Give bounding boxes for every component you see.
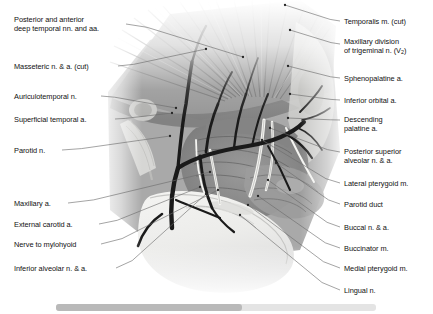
label-deep-temporal: Posterior and anteriordeep temporal nn. …	[14, 16, 99, 33]
label-line-1: Parotid n.	[14, 147, 45, 156]
leader-dot-buccal	[267, 179, 269, 181]
leader-dot-inferior-orbital	[289, 93, 291, 95]
label-masseteric: Masseteric n. & a. (cut)	[14, 63, 89, 72]
leader-dot-sphenopalatine	[287, 65, 289, 67]
leader-dot-external-carotid	[199, 186, 201, 188]
label-line-2: alveolar n. & a.	[344, 157, 401, 166]
label-external-carotid: External carotid a.	[14, 221, 73, 230]
label-maxillary-division: Maxillary divisionof trigeminal n. (V2)	[344, 38, 406, 56]
label-line-1: Lingual n.	[344, 287, 376, 296]
label-line-1: External carotid a.	[14, 221, 73, 230]
leader-dot-maxillary-division	[289, 29, 291, 31]
leader-dot-lingual	[239, 214, 241, 216]
label-line-1: Nerve to mylohyoid	[14, 241, 76, 250]
label-line-1: Parotid duct	[344, 201, 383, 210]
label-inferior-alveolar: Inferior alveolar n. & a.	[14, 265, 87, 274]
label-medial-pterygoid: Medial pterygoid m.	[344, 265, 408, 274]
leader-dot-medial-pterygoid	[247, 204, 249, 206]
leader-dot-auriculotemporal	[175, 107, 177, 109]
progress-fill	[56, 304, 242, 311]
label-auriculotemporal: Auriculotemporal n.	[14, 93, 77, 102]
label-line-2: of trigeminal n. (V2)	[344, 47, 406, 57]
label-lingual: Lingual n.	[344, 287, 376, 296]
label-nerve-mylohyoid: Nerve to mylohyoid	[14, 241, 76, 250]
leader-dot-inferior-alveolar	[205, 193, 207, 195]
label-line-1: Medial pterygoid m.	[344, 265, 408, 274]
label-maxillary-a: Maxillary a.	[14, 200, 51, 209]
leader-dot-masseteric	[205, 48, 207, 50]
label-line-1: Masseteric n. & a. (cut)	[14, 63, 89, 72]
label-line-1: Inferior alveolar n. & a.	[14, 265, 87, 274]
leader-dot-maxillary-a	[209, 171, 211, 173]
label-inferior-orbital: Inferior orbital a.	[344, 97, 396, 106]
dissection-artwork	[96, 0, 346, 300]
label-lateral-pterygoid: Lateral pterygoid m.	[344, 180, 408, 189]
label-posterior-superior-alveolar: Posterior superioralveolar n. & a.	[344, 148, 401, 165]
label-line-2: deep temporal nn. and aa.	[14, 25, 99, 34]
leader-dot-temporalis	[284, 4, 286, 6]
label-line-1: Buccal n. & a.	[344, 224, 389, 233]
label-line-2: palatine a.	[344, 125, 383, 134]
label-parotid-duct: Parotid duct	[344, 201, 383, 210]
bottom-progress-bar[interactable]	[0, 300, 433, 314]
leader-dot-parotid-duct	[275, 162, 277, 164]
label-line-1: Superficial temporal a.	[14, 116, 86, 125]
label-descending-palatine: Descendingpalatine a.	[344, 116, 383, 133]
label-temporalis: Temporalis m. (cut)	[344, 18, 406, 27]
label-sphenopalatine: Sphenopalatine a.	[344, 75, 403, 84]
label-line-1: Temporalis m. (cut)	[344, 18, 406, 27]
label-line-1: Auriculotemporal n.	[14, 93, 77, 102]
label-line-1: Lateral pterygoid m.	[344, 180, 408, 189]
label-line-1: Inferior orbital a.	[344, 97, 396, 106]
label-line-1: Maxillary a.	[14, 200, 51, 209]
leader-dot-descending-palatine	[287, 117, 289, 119]
leader-dot-lateral-pterygoid	[261, 139, 263, 141]
leader-dot-parotid-n	[169, 135, 171, 137]
leader-dot-superficial-temporal	[171, 112, 173, 114]
leader-dot-buccinator	[257, 195, 259, 197]
leader-dot-posterior-superior-alveolar	[269, 127, 271, 129]
label-parotid-n: Parotid n.	[14, 147, 45, 156]
label-line-1: Buccinator m.	[344, 245, 389, 254]
label-buccal: Buccal n. & a.	[344, 224, 389, 233]
label-line-1: Sphenopalatine a.	[344, 75, 403, 84]
label-buccinator: Buccinator m.	[344, 245, 389, 254]
leader-dot-deep-temporal	[242, 56, 244, 58]
leader-dot-nerve-mylohyoid	[217, 189, 219, 191]
label-superficial-temporal: Superficial temporal a.	[14, 116, 86, 125]
